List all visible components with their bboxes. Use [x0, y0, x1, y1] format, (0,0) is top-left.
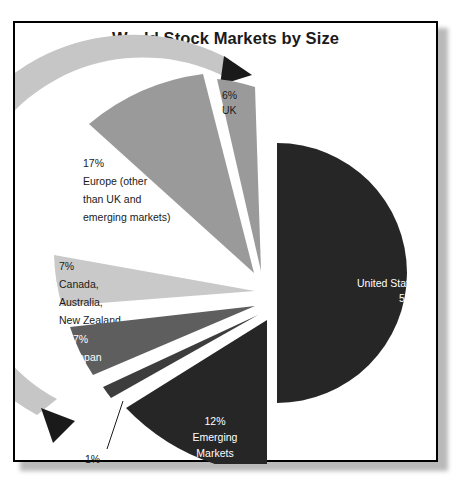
slice-europe-label-line3: emerging markets) [83, 211, 171, 223]
slice-europe-label-line2: than UK and [83, 193, 142, 205]
slice-other-leader-line [107, 401, 123, 449]
slice-emerging-label-line2: Markets [196, 447, 233, 459]
slice-emerging-value: 12% [204, 415, 225, 427]
slice-other-value: 1% [85, 453, 100, 464]
slice-canada-label-line1: Canada, [59, 278, 99, 290]
slice-united-states[interactable]: United States 50% [277, 143, 420, 403]
slice-europe-label-line1: Europe (other [83, 175, 148, 187]
slice-emerging-label-line1: Emerging [193, 431, 238, 443]
slice-uk-label: UK [222, 104, 237, 116]
slice-canada-value: 7% [59, 260, 74, 272]
slice-united-states-label: United States [357, 277, 420, 289]
slice-united-states-shape[interactable] [277, 143, 407, 403]
pie-chart-svg: INTERNATIONAL DEVELPED MARKET United Sta… [15, 23, 440, 464]
slice-japan-label: Japan [73, 351, 102, 363]
slice-uk-value: 6% [222, 89, 237, 101]
figure-page: World Stock Markets by Size INTERNATIONA… [0, 0, 458, 503]
slice-united-states-value: 50% [399, 292, 420, 304]
slice-canada-label-line2: Australia, [59, 296, 103, 308]
arc-arrowhead-bottom-icon [41, 408, 75, 443]
slice-japan-value: 7% [73, 333, 88, 345]
slice-europe-value: 17% [83, 157, 104, 169]
figure-frame: World Stock Markets by Size INTERNATIONA… [13, 21, 438, 462]
